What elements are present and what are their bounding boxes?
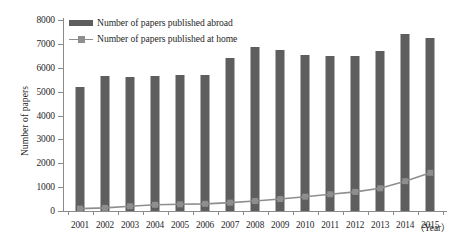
bar — [376, 51, 385, 211]
x-axis-tick-label: 2008 — [246, 220, 264, 230]
bar — [101, 76, 110, 211]
x-axis-tick-label: 2006 — [196, 220, 214, 230]
x-axis-tick — [418, 211, 419, 215]
bar — [201, 75, 210, 211]
x-axis-tick — [118, 211, 119, 215]
bar — [151, 76, 160, 211]
x-axis-tick-label: 2004 — [146, 220, 164, 230]
bar — [176, 75, 185, 211]
x-axis-tick — [293, 211, 294, 215]
x-axis-tick-label: 2009 — [271, 220, 289, 230]
bar — [401, 34, 410, 211]
x-axis-tick — [193, 211, 194, 215]
bar — [326, 56, 335, 211]
bar — [251, 47, 260, 211]
line-square-swatch-icon — [69, 35, 93, 43]
x-axis-tick-label: 2003 — [121, 220, 139, 230]
x-axis-tick — [93, 211, 94, 215]
bar — [226, 58, 235, 211]
bar — [351, 56, 360, 211]
x-axis-tick-label: 2014 — [396, 220, 414, 230]
x-axis-tick — [143, 211, 144, 215]
x-axis-tick — [393, 211, 394, 215]
bar — [76, 87, 85, 211]
x-axis-tick — [368, 211, 369, 215]
x-axis-tick-label: 2007 — [221, 220, 239, 230]
x-axis-tick — [343, 211, 344, 215]
x-axis-tick-label: 2010 — [296, 220, 314, 230]
chart-container: Number of papers 01000200030004000500060… — [0, 0, 461, 242]
legend-item-abroad: Number of papers published abroad — [69, 16, 237, 30]
x-axis-tick — [268, 211, 269, 215]
legend-label-abroad: Number of papers published abroad — [97, 18, 233, 28]
x-axis-tick-label: 2001 — [71, 220, 89, 230]
x-axis-tick-label: 2002 — [96, 220, 114, 230]
bar — [301, 55, 310, 211]
bar — [276, 50, 285, 211]
x-axis-tick-label: 2011 — [321, 220, 339, 230]
x-axis-tick — [218, 211, 219, 215]
y-axis-tick — [58, 211, 63, 212]
x-axis-tick-label: 2012 — [346, 220, 364, 230]
x-axis-tick — [243, 211, 244, 215]
legend-item-at-home: Number of papers published at home — [69, 32, 237, 46]
chart-legend: Number of papers published abroad Number… — [69, 16, 237, 48]
x-axis-tick — [168, 211, 169, 215]
x-axis-tick — [68, 211, 69, 215]
x-axis-tick — [443, 211, 444, 215]
bar-swatch-icon — [69, 20, 93, 26]
x-axis-tick — [318, 211, 319, 215]
legend-label-at-home: Number of papers published at home — [97, 34, 237, 44]
x-axis-tick-label: 2005 — [171, 220, 189, 230]
bar — [126, 77, 135, 211]
x-axis-line — [63, 211, 447, 212]
x-axis-tick-label: 2013 — [371, 220, 389, 230]
bar — [426, 38, 435, 211]
x-axis-unit-label: （Year） — [415, 220, 450, 234]
